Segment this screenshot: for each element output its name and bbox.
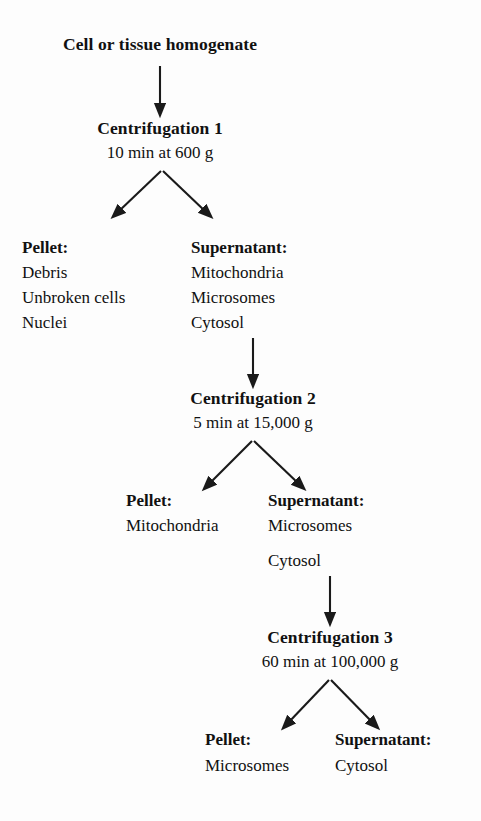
arrow-centrifugation1-to-supernatant1	[163, 171, 206, 212]
node-centrifugation-3-name: Centrifugation 3	[267, 629, 393, 647]
node-supernatant-2-label: Supernatant:	[268, 492, 364, 509]
node-supernatant-2-item: Microsomes	[268, 517, 352, 534]
node-supernatant-3-label: Supernatant:	[335, 731, 431, 748]
node-pellet-2-label: Pellet:	[126, 492, 172, 509]
arrow-centrifugation2-to-supernatant2	[254, 441, 299, 484]
node-supernatant-1-item: Mitochondria	[191, 264, 284, 281]
arrow-centrifugation2-to-pellet2	[209, 441, 252, 484]
arrow-centrifugation3-to-supernatant3	[331, 680, 373, 723]
flowchart-arrows	[0, 0, 481, 821]
node-centrifugation-2-conditions: 5 min at 15,000 g	[193, 414, 312, 431]
node-pellet-1-item: Debris	[22, 264, 67, 281]
arrow-centrifugation1-to-pellet1	[118, 171, 161, 212]
node-pellet-3-item: Microsomes	[205, 757, 289, 774]
node-centrifugation-1-conditions: 10 min at 600 g	[107, 144, 214, 161]
node-pellet-2-item: Mitochondria	[126, 517, 219, 534]
node-supernatant-3-item: Cytosol	[335, 757, 388, 774]
centrifugation-flowchart: Cell or tissue homogenate Centrifugation…	[0, 0, 481, 821]
node-homogenate-title: Cell or tissue homogenate	[63, 36, 257, 54]
arrow-centrifugation3-to-pellet3	[288, 680, 329, 723]
node-supernatant-2-item: Cytosol	[268, 552, 321, 569]
node-supernatant-1-label: Supernatant:	[191, 239, 287, 256]
node-supernatant-1-item: Microsomes	[191, 289, 275, 306]
node-pellet-1-item: Unbroken cells	[22, 289, 125, 306]
node-pellet-1-item: Nuclei	[22, 314, 67, 331]
node-supernatant-1-item: Cytosol	[191, 314, 244, 331]
node-pellet-1-label: Pellet:	[22, 239, 68, 256]
node-pellet-3-label: Pellet:	[205, 731, 251, 748]
node-centrifugation-2-name: Centrifugation 2	[190, 390, 316, 408]
node-centrifugation-1-name: Centrifugation 1	[97, 120, 223, 138]
node-centrifugation-3-conditions: 60 min at 100,000 g	[262, 653, 398, 670]
